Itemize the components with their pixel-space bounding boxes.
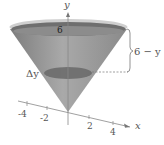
x-tick-neg4: -4 <box>18 109 27 119</box>
brace-icon <box>127 29 133 72</box>
y-axis-label: y <box>63 0 70 10</box>
x-tick-4: 4 <box>110 127 116 137</box>
x-axis-label: x <box>135 120 141 131</box>
cone-diagram: y x 6 6 − y Δy -4 -2 2 4 <box>0 0 164 145</box>
x-tick-2: 2 <box>87 121 93 131</box>
x-tick-neg2: -2 <box>40 113 49 123</box>
y-axis-arrow-icon <box>66 12 70 17</box>
y-tick-6: 6 <box>57 25 63 35</box>
delta-y-label: Δy <box>26 68 39 79</box>
cone-figure: y x 6 6 − y Δy -4 -2 2 4 <box>0 0 164 145</box>
brace-label: 6 − y <box>134 46 161 57</box>
